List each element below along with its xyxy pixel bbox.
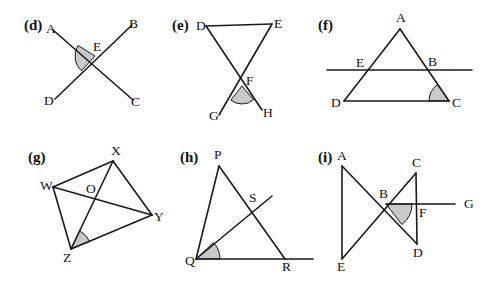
panel-h: (h)PQRS [180, 147, 313, 274]
segment-f-AD [344, 29, 400, 101]
segment-g-YZ [71, 215, 152, 249]
point-label-h-R: R [282, 259, 291, 274]
panel-d: (d)ABCDE [24, 16, 140, 109]
panel-label-g: (g) [28, 149, 46, 166]
panels-layer: (d)ABCDE(e)DEFGH(f)AEBDC(g)WXYZO(h)PQRS(… [24, 10, 474, 274]
panel-label-h: (h) [180, 149, 198, 166]
panel-f: (f)AEBDC [318, 10, 472, 110]
point-label-d-C: C [131, 94, 140, 109]
segment-g-WX [53, 161, 113, 187]
point-label-i-B: B [379, 186, 388, 201]
point-label-g-X: X [111, 143, 121, 158]
point-label-i-C: C [412, 155, 421, 170]
point-label-e-E: E [274, 16, 282, 31]
segment-d-DB [55, 25, 132, 99]
point-label-g-W: W [40, 178, 53, 193]
point-label-h-S: S [249, 190, 257, 205]
point-label-f-C: C [452, 95, 461, 110]
segment-g-XZ [71, 161, 113, 249]
point-label-h-P: P [214, 147, 222, 162]
point-label-f-A: A [396, 10, 406, 25]
geometry-figure-canvas: (d)ABCDE(e)DEFGH(f)AEBDC(g)WXYZO(h)PQRS(… [0, 0, 483, 288]
point-label-e-H: H [263, 105, 273, 120]
shaded-angle-i [386, 204, 412, 225]
panel-e: (e)DEFGH [172, 16, 282, 123]
panel-label-f: (f) [318, 17, 333, 34]
point-label-g-Z: Z [63, 250, 71, 265]
point-label-d-E: E [93, 39, 101, 54]
panel-label-e: (e) [172, 17, 189, 34]
panel-label-i: (i) [318, 149, 332, 166]
point-label-f-D: D [331, 95, 341, 110]
point-label-d-D: D [44, 93, 54, 108]
geometry-figure-sheet: (d)ABCDE(e)DEFGH(f)AEBDC(g)WXYZO(h)PQRS(… [0, 0, 483, 288]
point-label-i-G: G [464, 196, 474, 211]
panel-g: (g)WXYZO [28, 143, 164, 265]
point-label-f-B: B [428, 54, 437, 69]
ray-h-QS-ray [196, 196, 272, 259]
panel-i: (i)ACBFGDE [318, 148, 474, 274]
point-label-e-D: D [196, 18, 206, 33]
point-label-i-D: D [413, 245, 423, 260]
segment-g-XY [113, 161, 152, 215]
panel-label-d: (d) [24, 17, 42, 34]
point-label-i-F: F [419, 205, 427, 220]
point-label-f-E: E [356, 55, 364, 70]
point-label-d-B: B [129, 16, 138, 31]
point-label-g-O: O [86, 181, 96, 196]
segment-i-CD [416, 173, 417, 244]
point-label-i-A: A [337, 148, 347, 163]
segment-e-DE [206, 24, 272, 26]
point-label-e-F: F [246, 73, 254, 88]
point-label-g-Y: Y [154, 209, 164, 224]
segment-g-ZW [53, 187, 71, 249]
point-label-h-Q: Q [185, 253, 195, 268]
segment-g-WY [53, 187, 152, 215]
point-label-d-A: A [46, 21, 56, 36]
segment-f-AC [400, 29, 449, 101]
point-label-i-E: E [337, 259, 345, 274]
shaded-angle-g [71, 231, 89, 249]
point-label-e-G: G [209, 108, 219, 123]
